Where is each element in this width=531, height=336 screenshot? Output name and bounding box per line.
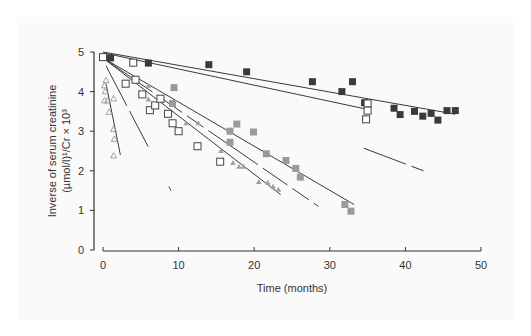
x-tick-label: 30 <box>324 259 336 271</box>
y-tick-label: 4 <box>78 86 84 98</box>
x-tick-label: 0 <box>100 259 106 271</box>
data-point <box>297 174 304 181</box>
x-tick-label: 10 <box>172 259 184 271</box>
data-point <box>276 187 282 192</box>
fit-line <box>106 84 120 155</box>
data-point <box>230 160 236 165</box>
data-point <box>364 107 371 114</box>
data-point <box>107 54 114 61</box>
y-tick-label: 0 <box>78 244 84 256</box>
data-point <box>194 143 201 150</box>
data-point <box>243 68 250 75</box>
data-point <box>391 105 398 112</box>
data-point <box>111 153 117 158</box>
data-point <box>250 128 257 135</box>
y-tick-label: 5 <box>78 46 84 58</box>
data-point <box>443 107 450 114</box>
x-tick-label: 50 <box>475 259 487 271</box>
data-point <box>364 100 371 107</box>
data-point <box>171 84 178 91</box>
data-point <box>139 91 146 98</box>
data-point <box>111 126 117 131</box>
data-point <box>309 78 316 85</box>
data-point <box>132 76 139 83</box>
data-point <box>270 184 276 189</box>
data-point <box>265 180 271 185</box>
data-point <box>233 121 240 128</box>
data-point <box>419 113 426 120</box>
data-point <box>292 165 299 172</box>
data-point <box>349 78 356 85</box>
x-tick-label: 40 <box>399 259 411 271</box>
data-point <box>146 97 152 102</box>
data-point <box>338 88 345 95</box>
scatter-chart: 01234501020304050 Time (months) Inverse … <box>0 0 531 336</box>
data-point <box>282 157 289 164</box>
x-tick-label: 20 <box>248 259 260 271</box>
data-point <box>122 80 129 87</box>
data-point <box>157 95 164 102</box>
data-point <box>341 201 348 208</box>
data-point <box>434 117 441 124</box>
x-axis-title: Time (months) <box>257 282 328 294</box>
y-axis-title-line1: Inverse of serum creatinine <box>46 85 58 218</box>
data-point <box>411 108 418 115</box>
data-point <box>169 100 176 107</box>
y-tick-label: 2 <box>78 165 84 177</box>
y-tick-label: 3 <box>78 125 84 137</box>
data-point <box>227 139 234 146</box>
steep-line <box>106 66 171 191</box>
data-point <box>165 110 172 117</box>
data-point <box>175 128 182 135</box>
data-point <box>130 59 137 66</box>
fit-lines <box>103 52 455 206</box>
data-point <box>145 60 152 67</box>
y-tick-label: 1 <box>78 204 84 216</box>
data-point <box>347 208 354 215</box>
data-point <box>152 102 159 109</box>
data-point <box>111 96 117 101</box>
late-line <box>364 148 424 171</box>
data-point <box>217 158 224 165</box>
data-point <box>100 54 107 61</box>
data-point <box>169 120 176 127</box>
data-point <box>103 77 109 82</box>
data-point <box>428 110 435 117</box>
data-point <box>227 128 234 135</box>
data-point <box>452 107 459 114</box>
data-point <box>205 61 212 68</box>
data-points <box>100 54 459 215</box>
data-point <box>397 111 404 118</box>
y-axis-title-line2: (µmol/l)¹/Cr × 10³ <box>60 109 72 193</box>
data-point <box>263 150 270 157</box>
data-point <box>363 116 370 123</box>
